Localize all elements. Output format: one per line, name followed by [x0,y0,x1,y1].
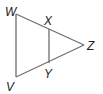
label-z: Z [86,39,95,53]
label-w: W [5,5,18,19]
label-y: Y [44,67,53,81]
label-v: V [6,80,15,94]
triangle-diagram: W X Z Y V [0,0,103,94]
label-x: X [43,14,53,28]
